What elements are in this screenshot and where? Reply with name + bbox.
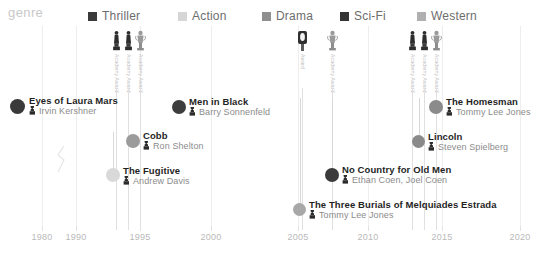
film-director-name: Tommy Lee Jones: [319, 210, 394, 220]
film-connector-line: [300, 98, 301, 206]
legend-item-label: Drama: [276, 9, 313, 23]
film-label-group: The HomesmanTommy Lee Jones: [446, 96, 531, 118]
legend-item-sci-fi[interactable]: Sci-Fi: [340, 6, 386, 20]
film-label-group: CobbRon Shelton: [143, 130, 204, 152]
award-caption: Academy Award: [434, 54, 440, 93]
film-director-name: Ron Shelton: [153, 141, 204, 151]
film-director-name: Steven Spielberg: [438, 142, 508, 152]
film-director-name: Irvin Kershner: [39, 106, 96, 116]
film-director-row: Steven Spielberg: [428, 142, 508, 153]
film-connector-line: [113, 132, 114, 170]
film-title: Eyes of Laura Mars: [29, 95, 118, 106]
film-title: The Fugitive: [123, 165, 190, 176]
film-title: The Homesman: [446, 96, 531, 107]
film-title: No Country for Old Men: [342, 164, 451, 175]
axis-tick-mark: [298, 226, 299, 231]
legend-swatch-icon: [262, 12, 271, 21]
legend-item-label: Western: [431, 9, 477, 23]
legend-item-action[interactable]: Action: [178, 6, 227, 20]
axis-tick-mark: [76, 226, 77, 231]
film-director-name: Andrew Davis: [133, 176, 190, 186]
film-genre-dot[interactable]: [172, 100, 186, 114]
film-director-row: Barry Sonnenfeld: [189, 107, 270, 118]
legend-item-label: Action: [192, 9, 227, 23]
film-label-group: The FugitiveAndrew Davis: [123, 165, 190, 187]
legend-swatch-icon: [178, 12, 187, 21]
axis-tick-mark: [211, 226, 212, 231]
axis-break-icon: [53, 146, 69, 172]
legend-swatch-icon: [417, 12, 426, 21]
film-genre-dot[interactable]: [325, 168, 339, 182]
film-title: Lincoln: [428, 131, 508, 142]
film-director-row: Tommy Lee Jones: [446, 107, 531, 118]
axis-tick-label: 1990: [65, 232, 86, 242]
award-caption: Academy Award: [138, 54, 144, 93]
film-title: The Three Burials of Melquiades Estrada: [309, 199, 497, 210]
legend-swatch-icon: [88, 12, 97, 21]
legend-item-drama[interactable]: Drama: [262, 6, 313, 20]
film-title: Cobb: [143, 130, 204, 141]
legend-swatch-icon: [340, 12, 349, 21]
award-caption: Award: [300, 54, 306, 69]
film-label-group: Eyes of Laura MarsIrvin Kershner: [29, 95, 118, 117]
film-director-row: Irvin Kershner: [29, 106, 118, 117]
film-director-row: Tommy Lee Jones: [309, 210, 497, 221]
legend-item-thriller[interactable]: Thriller: [88, 6, 140, 20]
axis-tick-label: 1980: [31, 232, 52, 242]
oscar-statuette-icon: Academy Award: [430, 30, 443, 52]
film-director-row: Andrew Davis: [123, 176, 190, 187]
film-genre-dot[interactable]: [412, 135, 425, 148]
film-director-name: Ethan Coen, Joel Coen: [352, 175, 447, 185]
axis-tick-mark: [368, 226, 369, 231]
axis-tick-mark: [442, 226, 443, 231]
axis-tick-label: 1995: [129, 232, 150, 242]
film-director-name: Tommy Lee Jones: [456, 107, 531, 117]
film-director-name: Barry Sonnenfeld: [199, 107, 270, 117]
film-connector-line: [332, 98, 333, 170]
oscar-statuette-icon: Academy Award: [326, 30, 339, 52]
legend-title: genre: [8, 5, 43, 20]
axis-tick-mark: [520, 226, 521, 231]
award-caption: Academy Award: [126, 54, 132, 93]
axis-tick-mark: [42, 226, 43, 231]
axis-tick-label: 2010: [357, 232, 378, 242]
award-stem: [128, 88, 129, 230]
film-director-row: Ethan Coen, Joel Coen: [342, 175, 451, 186]
film-genre-dot[interactable]: [293, 203, 306, 216]
award-stem: [140, 88, 141, 230]
axis-tick-label: 2015: [431, 232, 452, 242]
award-caption: Academy Award: [114, 54, 120, 93]
award-badge-icon: Award: [296, 30, 309, 52]
film-genre-dot[interactable]: [106, 168, 120, 182]
axis-tick-label: 2005: [287, 232, 308, 242]
award-caption: Academy Award: [410, 54, 416, 93]
genre-legend: genre ThrillerActionDramaSci-FiWestern: [0, 0, 560, 26]
film-connector-line: [419, 98, 420, 136]
award-caption: Academy Award: [422, 54, 428, 93]
film-label-group: No Country for Old MenEthan Coen, Joel C…: [342, 164, 451, 186]
film-label-group: The Three Burials of Melquiades EstradaT…: [309, 199, 497, 221]
award-caption: Academy Award: [330, 54, 336, 93]
gridline: [76, 26, 77, 230]
legend-item-label: Sci-Fi: [354, 9, 386, 23]
gridline: [42, 26, 43, 230]
legend-item-label: Thriller: [102, 9, 140, 23]
axis-tick-label: 2020: [509, 232, 530, 242]
gridline: [520, 26, 521, 230]
film-label-group: Men in BlackBarry Sonnenfeld: [189, 96, 270, 118]
film-title: Men in Black: [189, 96, 270, 107]
gridline: [211, 26, 212, 230]
timeline-visualization: genre ThrillerActionDramaSci-FiWestern 1…: [0, 0, 560, 260]
film-genre-dot[interactable]: [126, 134, 140, 148]
axis-tick-label: 2000: [200, 232, 221, 242]
film-genre-dot[interactable]: [429, 100, 443, 114]
film-director-row: Ron Shelton: [143, 141, 204, 152]
legend-item-western[interactable]: Western: [417, 6, 477, 20]
oscar-statuette-icon: Academy Award: [134, 30, 147, 52]
film-genre-dot[interactable]: [10, 99, 25, 114]
film-label-group: LincolnSteven Spielberg: [428, 131, 508, 153]
